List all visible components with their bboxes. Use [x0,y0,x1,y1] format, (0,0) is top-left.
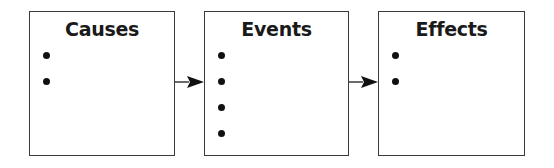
bullet-icon [392,52,399,59]
events-bullet-list [218,52,225,156]
effects-title: Effects [379,18,524,40]
arrow-right-icon [175,75,204,89]
effects-bullet-list [392,52,399,104]
bullet-icon [392,78,399,85]
bullet-icon [43,78,50,85]
causes-title: Causes [30,18,174,40]
arrow-events-to-effects [349,75,378,89]
arrow-right-icon [349,75,378,89]
events-title: Events [205,18,348,40]
bullet-icon [218,130,225,137]
effects-box: Effects [378,11,525,156]
bullet-icon [218,78,225,85]
bullet-icon [43,52,50,59]
arrow-causes-to-events [175,75,204,89]
bullet-icon [218,104,225,111]
causes-bullet-list [43,52,50,104]
bullet-icon [218,52,225,59]
events-box: Events [204,11,349,156]
causes-box: Causes [29,11,175,156]
